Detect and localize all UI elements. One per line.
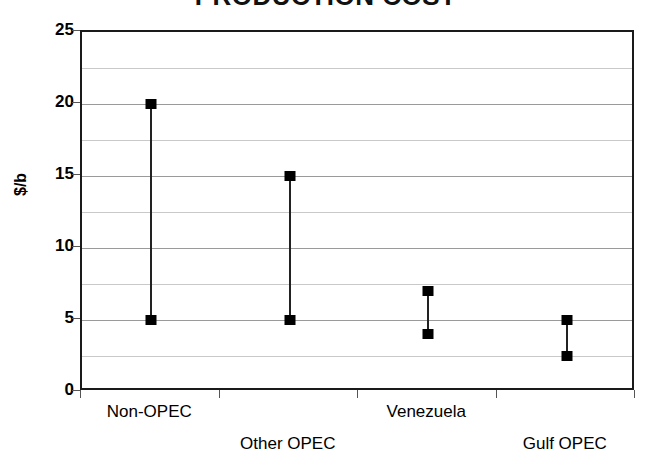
data-marker-low[interactable] (284, 315, 295, 325)
gridline (82, 284, 632, 285)
x-axis-label: Non-OPEC (107, 402, 192, 421)
x-axis-label: Gulf OPEC (523, 434, 607, 453)
gridline (82, 176, 632, 177)
y-axis-title: $/b (12, 173, 30, 196)
x-axis-label: Other OPEC (240, 434, 335, 453)
gridline (82, 212, 632, 213)
y-tickmark (72, 318, 80, 319)
y-tickmark (72, 30, 80, 31)
range-connector-line (427, 291, 429, 334)
y-tickmark (72, 102, 80, 103)
gridline (82, 320, 632, 321)
x-tickmark (357, 390, 358, 398)
plot-area (80, 30, 634, 390)
data-marker-high[interactable] (561, 315, 572, 325)
x-tickmark (219, 390, 220, 398)
gridline (82, 248, 632, 249)
gridline (82, 140, 632, 141)
x-tickmark (634, 390, 635, 398)
chart-title: PRODUCTION COST (0, 0, 651, 10)
y-tick-label: 10 (40, 237, 74, 254)
gridline (82, 68, 632, 69)
y-tickmark (72, 174, 80, 175)
data-marker-low[interactable] (561, 351, 572, 361)
x-tickmark (80, 390, 81, 398)
data-marker-high[interactable] (423, 286, 434, 296)
y-tick-label: 0 (40, 381, 74, 398)
y-tick-label: 25 (40, 21, 74, 38)
x-tickmark (496, 390, 497, 398)
y-tickmark (72, 246, 80, 247)
data-marker-high[interactable] (284, 171, 295, 181)
x-axis-label: Venezuela (387, 402, 466, 421)
range-connector-line (150, 104, 152, 320)
data-marker-low[interactable] (146, 315, 157, 325)
y-tick-label: 15 (40, 165, 74, 182)
range-connector-line (289, 176, 291, 320)
gridline (82, 104, 632, 105)
y-tick-label: 5 (40, 309, 74, 326)
y-tick-label: 20 (40, 93, 74, 110)
y-axis-tick-labels: 0510152025 (36, 0, 74, 461)
data-marker-low[interactable] (423, 329, 434, 339)
chart-container: PRODUCTION COST $/b 0510152025 Non-OPECO… (0, 0, 651, 461)
gridline (82, 356, 632, 357)
y-tickmark (72, 390, 80, 391)
data-marker-high[interactable] (146, 99, 157, 109)
